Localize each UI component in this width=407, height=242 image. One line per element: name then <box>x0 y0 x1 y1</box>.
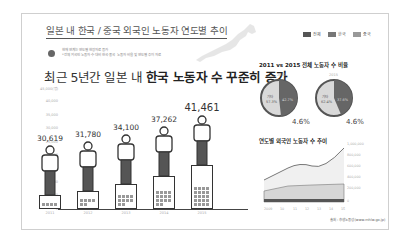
building-icon <box>77 191 99 209</box>
worker-figure-icon <box>77 141 99 191</box>
building-icon <box>115 184 137 209</box>
line-x-tick: 12 <box>305 207 309 211</box>
line-x-tick: 13 <box>317 207 321 211</box>
legend-item-korea: 한국 <box>328 31 346 37</box>
headline: 최근 5년간 일본 내 한국 노동자 수 꾸준히 증가 <box>44 67 288 86</box>
bar-2015: 41,461 <box>190 102 214 209</box>
line-y-tick: 800,000 <box>347 153 361 157</box>
pie-chart-2015: 기타 62.4% 37.6% <box>314 78 354 118</box>
svg-text:기타: 기타 <box>322 94 329 99</box>
bar-2014: 37,262 <box>152 115 176 209</box>
area-chart <box>262 146 346 204</box>
x-label: 2013 <box>114 211 138 215</box>
line-x-tick: 2009 <box>264 207 272 211</box>
building-icon <box>39 195 61 209</box>
x-label: 2014 <box>152 211 176 215</box>
x-label: 2012 <box>76 211 100 215</box>
line-section-title: 연도별 외국인 노동자 수 추이 <box>259 137 327 145</box>
x-label: 2011 <box>38 211 62 215</box>
svg-text:기타: 기타 <box>267 94 274 99</box>
svg-text:62.4%: 62.4% <box>321 100 333 104</box>
line-y-tick: 200,000 <box>347 186 361 190</box>
line-y-tick: 1,000,000 <box>347 142 364 146</box>
line-x-tick: 14 <box>329 207 333 211</box>
svg-text:37.6%: 37.6% <box>337 98 349 102</box>
bar-2013: 34,100 <box>114 123 138 209</box>
building-icon <box>153 176 175 209</box>
pie-year-2015: 2015 <box>329 73 338 77</box>
source-note: 출처 : 후생노동성(www.mhlw.go.jp) <box>330 217 385 222</box>
pie-year-2011: 2011 <box>277 73 286 77</box>
korea-pct-2015: 4.6% <box>346 118 364 126</box>
korea-pct-2011: 4.6% <box>292 118 310 126</box>
line-x-tick: 15 <box>341 207 345 211</box>
x-label: 2015 <box>190 211 214 215</box>
pie-section-title: 2011 vs 2015 전체 노동자 수 비율 <box>259 61 348 69</box>
bar-baseline <box>58 209 248 210</box>
note-text: 현재 연계는 연도별 현장자료 증가 *전체 외국인 노동자 수 대비 한국·중… <box>62 48 161 58</box>
bar-2011: 30,619 <box>38 134 62 209</box>
worker-figure-icon <box>115 134 137 184</box>
svg-text:57.3%: 57.3% <box>266 100 278 104</box>
japan-map-icon <box>192 22 262 67</box>
line-y-tick: 600,000 <box>347 164 361 168</box>
line-x-tick: 11 <box>293 207 297 211</box>
worker-figure-icon <box>39 145 61 195</box>
bar-2012: 31,780 <box>76 130 100 209</box>
worker-figure-icon <box>153 126 175 176</box>
line-x-tick: 10 <box>280 207 284 211</box>
legend-item-total: 전체 <box>303 31 321 37</box>
line-y-tick: 0 <box>347 199 349 203</box>
note-bullet-icon <box>48 50 55 57</box>
chart-legend: 전체 한국 중국 <box>303 31 371 37</box>
svg-text:42.7%: 42.7% <box>282 98 294 102</box>
pie-chart-2011: 기타 57.3% 42.7% <box>259 78 299 118</box>
legend-item-china: 중국 <box>353 31 371 37</box>
building-icon <box>191 165 213 209</box>
line-y-tick: 400,000 <box>347 175 361 179</box>
worker-figure-icon <box>191 115 213 165</box>
